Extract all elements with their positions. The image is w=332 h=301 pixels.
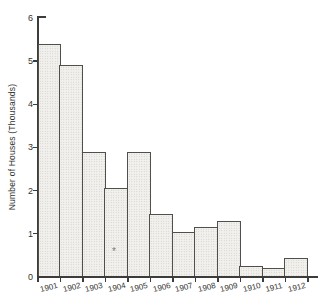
y-axis-top-tick	[38, 16, 46, 18]
y-tick-label: 5	[14, 56, 33, 66]
y-tick-mark	[33, 233, 38, 234]
bar-1901	[38, 44, 61, 277]
y-tick-label: 2	[14, 186, 33, 196]
x-axis-line	[37, 276, 318, 278]
bar-1904	[104, 188, 128, 277]
stray-asterisk-mark: *	[112, 246, 116, 257]
y-tick-label: 1	[14, 229, 33, 239]
bar-chart-figure: Number of Houses (Thousands) 0123456 190…	[0, 0, 332, 301]
bar-1909	[217, 221, 241, 277]
bar-1903	[82, 152, 106, 277]
bar-1902	[59, 65, 83, 277]
y-tick-label: 6	[14, 13, 33, 23]
bar-1905	[127, 152, 151, 277]
bar-1907	[172, 232, 196, 277]
y-tick-mark	[33, 147, 38, 148]
bar-1906	[149, 214, 173, 277]
y-tick-label: 4	[14, 99, 33, 109]
y-tick-mark	[33, 104, 38, 105]
bar-1908	[194, 227, 218, 277]
y-tick-mark	[33, 190, 38, 191]
y-tick-mark	[33, 60, 38, 61]
y-tick-label: 3	[14, 142, 33, 152]
x-tick-mark	[37, 278, 38, 283]
y-tick-label: 0	[14, 272, 33, 282]
bar-1912	[284, 258, 308, 277]
